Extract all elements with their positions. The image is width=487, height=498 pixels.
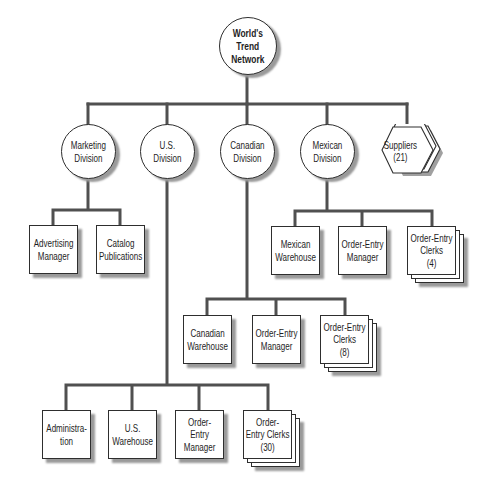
position-label-line: Mexican bbox=[281, 238, 311, 251]
position-node-us-order-entry-manager: Order- Entry Manager bbox=[175, 410, 224, 459]
position-label-line: Warehouse bbox=[112, 435, 153, 448]
stack-layer-front: Order- Entry Clerks (30) bbox=[243, 410, 292, 459]
position-node-administration: Administra- tion bbox=[42, 410, 91, 459]
position-node-advertising-manager: Advertising Manager bbox=[29, 225, 78, 274]
position-node-us-order-entry-clerks-stacked: Order- Entry Clerks (30) bbox=[243, 410, 292, 459]
position-label-line: Manager bbox=[184, 441, 216, 454]
division-node-marketing: Marketing Division bbox=[61, 124, 116, 179]
position-label-line: Clerks bbox=[420, 244, 443, 257]
position-label-line: Advertising bbox=[34, 237, 74, 250]
position-label-line: Manager bbox=[261, 340, 293, 353]
position-count: (30) bbox=[260, 441, 274, 454]
division-label-line: U.S. bbox=[160, 139, 176, 152]
position-label-line: Clerks bbox=[333, 333, 356, 346]
division-label-line: Division bbox=[153, 152, 181, 165]
root-label-line: World's bbox=[233, 27, 263, 40]
suppliers-label-line: Suppliers bbox=[384, 139, 417, 152]
position-count: (8) bbox=[340, 346, 350, 359]
position-label-line: Order-Entry bbox=[256, 327, 298, 340]
division-label-line: Canadian bbox=[230, 139, 264, 152]
position-node-canadian-order-entry-clerks-stacked: Order-Entry Clerks (8) bbox=[320, 315, 369, 364]
position-label-line: Warehouse bbox=[187, 340, 228, 353]
root-label-line: Network bbox=[231, 53, 264, 66]
position-count: (4) bbox=[427, 257, 437, 270]
position-node-canadian-order-entry-manager: Order-Entry Manager bbox=[252, 315, 301, 364]
position-label-line: Order- bbox=[256, 416, 279, 429]
position-node-mexican-warehouse: Mexican Warehouse bbox=[271, 226, 320, 275]
position-node-mexican-order-entry-clerks-stacked: Order-Entry Clerks (4) bbox=[407, 226, 456, 275]
position-node-us-warehouse: U.S. Warehouse bbox=[108, 410, 157, 459]
position-node-mexican-order-entry-manager: Order-Entry Manager bbox=[338, 226, 387, 275]
connector-marketing bbox=[53, 179, 120, 225]
org-chart-diagram: World's Trend Network Marketing Division… bbox=[0, 0, 487, 498]
division-label-line: Division bbox=[313, 152, 341, 165]
division-label-line: Mexican bbox=[313, 139, 343, 152]
position-label-line: Entry bbox=[190, 428, 209, 441]
stack-layer-front: Order-Entry Clerks (4) bbox=[407, 226, 456, 275]
position-label-line: Publications bbox=[99, 250, 142, 263]
position-label-line: Order-Entry bbox=[324, 321, 366, 334]
connector-mexican bbox=[295, 179, 432, 226]
division-node-mexican: Mexican Division bbox=[300, 124, 355, 179]
position-label-line: Canadian bbox=[190, 327, 224, 340]
position-label-line: Entry Clerks bbox=[246, 428, 290, 441]
root-label-line: Trend bbox=[237, 40, 260, 53]
division-label-line: Division bbox=[74, 152, 102, 165]
position-label-line: Warehouse bbox=[275, 251, 316, 264]
position-label-line: Manager bbox=[38, 250, 70, 263]
division-label-line: Division bbox=[233, 152, 261, 165]
position-node-catalog-publications: Catalog Publications bbox=[96, 225, 145, 274]
position-label-line: U.S. bbox=[125, 422, 141, 435]
position-label-line: tion bbox=[60, 435, 73, 448]
connector-us bbox=[66, 179, 268, 410]
suppliers-label-line: (21) bbox=[393, 151, 407, 164]
position-label-line: Administra- bbox=[46, 422, 87, 435]
stack-layer-front: Order-Entry Clerks (8) bbox=[320, 315, 369, 364]
division-node-us: U.S. Division bbox=[140, 124, 195, 179]
position-label-line: Order-Entry bbox=[342, 238, 384, 251]
root-node-worlds-trend-network: World's Trend Network bbox=[219, 17, 277, 75]
position-node-canadian-warehouse: Canadian Warehouse bbox=[183, 315, 232, 364]
position-label-line: Manager bbox=[347, 251, 379, 264]
position-label-line: Order- bbox=[188, 416, 211, 429]
position-label-line: Catalog bbox=[107, 237, 135, 250]
suppliers-node-stacked-hexagon: Suppliers (21) bbox=[378, 124, 448, 186]
division-node-canadian: Canadian Division bbox=[220, 124, 275, 179]
position-label-line: Order-Entry bbox=[411, 232, 453, 245]
division-label-line: Marketing bbox=[71, 139, 106, 152]
